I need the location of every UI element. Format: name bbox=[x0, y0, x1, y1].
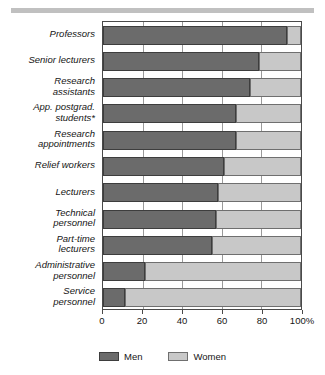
category-label: Relief workers bbox=[35, 160, 95, 171]
bar-row bbox=[103, 210, 301, 229]
category-label: Administrative personnel bbox=[35, 260, 95, 281]
category-label: Lecturers bbox=[55, 187, 95, 198]
legend-item: Women bbox=[168, 351, 226, 362]
legend-swatch-women bbox=[168, 352, 188, 361]
axis-tick bbox=[262, 310, 263, 314]
bar-segment-men bbox=[103, 131, 236, 150]
bar-segment-men bbox=[103, 104, 236, 123]
bar-row bbox=[103, 157, 301, 176]
legend-label: Men bbox=[124, 351, 142, 362]
category-label: Senior lecturers bbox=[28, 55, 95, 66]
axis-tick bbox=[222, 310, 223, 314]
legend-label: Women bbox=[193, 351, 226, 362]
bar-row bbox=[103, 183, 301, 202]
bar-segment-women bbox=[145, 262, 301, 281]
bar-row bbox=[103, 262, 301, 281]
bar-segment-women bbox=[218, 183, 301, 202]
bar-segment-men bbox=[103, 157, 224, 176]
category-axis-labels: ProfessorsSenior lecturersResearch assis… bbox=[0, 21, 99, 310]
bar-row bbox=[103, 131, 301, 150]
bar-segment-women bbox=[236, 131, 301, 150]
legend-item: Men bbox=[99, 351, 142, 362]
bar-segment-men bbox=[103, 78, 250, 97]
bar-segment-men bbox=[103, 26, 287, 45]
bar-row bbox=[103, 26, 301, 45]
axis-tick-label: 60 bbox=[217, 315, 228, 326]
bar-segment-men bbox=[103, 52, 259, 71]
bar-segment-women bbox=[224, 157, 301, 176]
category-label: App. postgrad. students* bbox=[33, 102, 95, 123]
category-label: Research assistants bbox=[53, 76, 95, 97]
bar-row bbox=[103, 288, 301, 307]
category-label: Professors bbox=[50, 29, 95, 40]
bar-segment-men bbox=[103, 236, 212, 255]
category-label: Part-time lecturers bbox=[56, 234, 95, 255]
axis-tick-label: 40 bbox=[177, 315, 188, 326]
plot-area bbox=[102, 21, 302, 310]
bar-segment-women bbox=[216, 210, 301, 229]
category-label: Service personnel bbox=[53, 286, 95, 307]
bar-segment-men bbox=[103, 210, 216, 229]
bar-segment-women bbox=[287, 26, 301, 45]
axis-tick bbox=[142, 310, 143, 314]
axis-tick bbox=[182, 310, 183, 314]
stacked-bar-chart: ProfessorsSenior lecturersResearch assis… bbox=[0, 21, 325, 321]
bar-row bbox=[103, 104, 301, 123]
category-label: Research appointments bbox=[38, 129, 95, 150]
bar-row bbox=[103, 52, 301, 71]
bar-segment-men bbox=[103, 288, 125, 307]
top-divider-rule bbox=[11, 8, 314, 13]
axis-tick-label: 20 bbox=[137, 315, 148, 326]
bar-row bbox=[103, 78, 301, 97]
bar-segment-women bbox=[125, 288, 301, 307]
bar-segment-women bbox=[250, 78, 301, 97]
chart-legend: MenWomen bbox=[0, 348, 325, 364]
legend-swatch-men bbox=[99, 352, 119, 361]
bar-segment-women bbox=[259, 52, 301, 71]
bar-segment-men bbox=[103, 262, 145, 281]
value-axis: 020406080100% bbox=[102, 310, 302, 332]
axis-tick-label: 0 bbox=[99, 315, 104, 326]
category-label: Technical personnel bbox=[53, 208, 95, 229]
axis-tick bbox=[302, 310, 303, 314]
axis-tick bbox=[102, 310, 103, 314]
bar-segment-women bbox=[236, 104, 301, 123]
bar-segment-women bbox=[212, 236, 301, 255]
axis-tick-label: 80 bbox=[257, 315, 268, 326]
bar-row bbox=[103, 236, 301, 255]
bar-segment-men bbox=[103, 183, 218, 202]
axis-tick-label: 100% bbox=[290, 315, 314, 326]
